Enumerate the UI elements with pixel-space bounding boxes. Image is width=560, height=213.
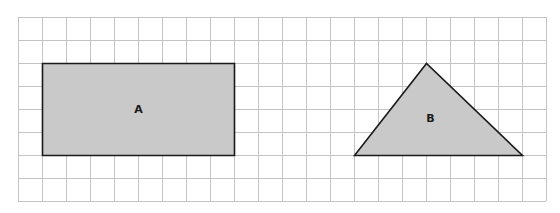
grid-diagram: A B [0, 0, 560, 213]
label-a: A [134, 103, 143, 116]
label-b: B [426, 112, 434, 125]
